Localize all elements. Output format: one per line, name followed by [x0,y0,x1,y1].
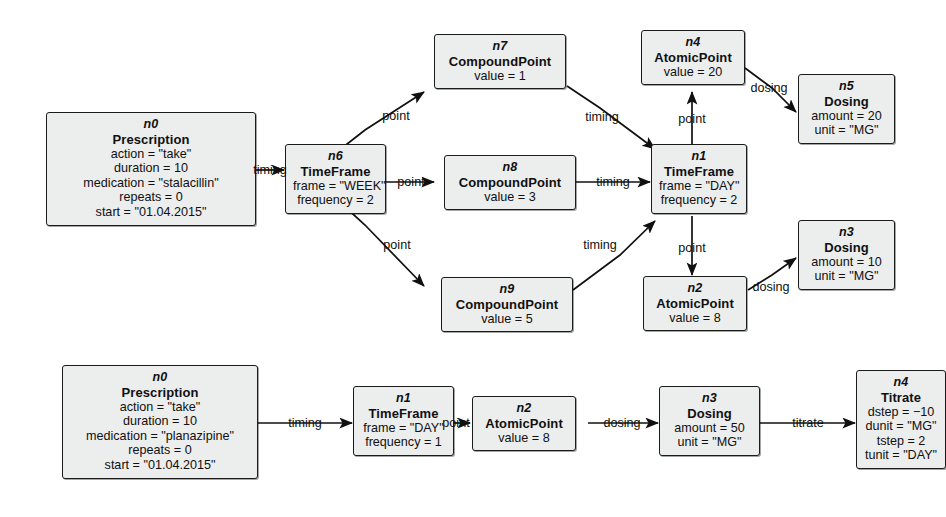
edge-label-point: point [442,416,469,430]
edge-label-point: point [383,238,410,252]
node-attr: value = 5 [449,312,565,327]
node-attr: start = "01.04.2015" [54,205,248,220]
node-g2-n3-dosing[interactable]: n3 Dosing amount = 50 unit = "MG" [659,386,760,456]
edge-label-timing: timing [288,416,322,430]
node-type: Titrate [864,390,938,405]
node-g2-n1-timeframe[interactable]: n1 TimeFrame frame = "DAY" frequency = 1 [353,386,454,456]
edge-label-timing: timing [253,163,287,177]
node-type: AtomicPoint [649,50,737,65]
node-g1-n5-dosing[interactable]: n5 Dosing amount = 20 unit = "MG" [798,74,895,144]
node-attr: frame = "DAY" [361,421,446,436]
node-attr: amount = 10 [806,255,887,270]
edge-label-dosing: dosing [603,416,640,430]
node-attr: value = 8 [651,311,739,326]
node-id: n0 [70,370,250,385]
node-attr: repeats = 0 [70,443,250,458]
node-type: Dosing [806,94,887,109]
node-type: Dosing [806,240,887,255]
node-attr: value = 1 [442,69,558,84]
node-attr: frame = "DAY" [659,179,739,194]
node-attr: frequency = 2 [659,193,739,208]
node-g1-n9-compoundpoint[interactable]: n9 CompoundPoint value = 5 [441,277,573,332]
node-type: CompoundPoint [449,297,565,312]
node-id: n8 [452,160,568,175]
node-type: Dosing [667,406,752,421]
node-g1-n7-compoundpoint[interactable]: n7 CompoundPoint value = 1 [434,34,566,89]
node-g1-n3-dosing[interactable]: n3 Dosing amount = 10 unit = "MG" [798,220,895,290]
node-type: Prescription [70,385,250,400]
node-attr: start = "01.04.2015" [70,458,250,473]
node-type: AtomicPoint [480,416,568,431]
node-attr: unit = "MG" [667,435,752,450]
node-attr: amount = 50 [667,421,752,436]
edge-label-dosing: dosing [752,280,789,294]
node-type: CompoundPoint [442,54,558,69]
node-attr: value = 20 [649,65,737,80]
node-attr: repeats = 0 [54,190,248,205]
node-attr: medication = "stalacillin" [54,176,248,191]
node-attr: unit = "MG" [806,269,887,284]
node-attr: action = "take" [54,147,248,162]
node-attr: duration = 10 [70,414,250,429]
node-g1-n0-prescription[interactable]: n0 Prescription action = "take" duration… [46,112,256,226]
node-id: n5 [806,79,887,94]
node-attr: action = "take" [70,400,250,415]
node-attr: dstep = −10 [864,405,938,420]
node-attr: dunit = "MG" [864,419,938,434]
node-g1-n1-timeframe[interactable]: n1 TimeFrame frame = "DAY" frequency = 2 [651,144,747,214]
node-g2-n0-prescription[interactable]: n0 Prescription action = "take" duration… [62,365,258,479]
node-id: n2 [480,401,568,416]
edge-label-point: point [382,109,409,123]
node-id: n7 [442,39,558,54]
node-g1-n8-compoundpoint[interactable]: n8 CompoundPoint value = 3 [444,155,576,210]
edge-label-timing: timing [585,110,619,124]
node-attr: value = 8 [480,431,568,446]
edge-label-point: point [678,112,705,126]
node-attr: frequency = 1 [361,435,446,450]
node-type: TimeFrame [361,406,446,421]
edge-label-point: point [678,241,705,255]
node-g1-n2-atomicpoint[interactable]: n2 AtomicPoint value = 8 [643,276,747,331]
node-attr: value = 3 [452,190,568,205]
node-id: n4 [864,375,938,390]
edge-label-point: point [397,175,424,189]
node-attr: unit = "MG" [806,123,887,138]
node-g1-n6-timeframe[interactable]: n6 TimeFrame frame = "WEEK" frequency = … [285,144,386,214]
node-attr: frame = "WEEK" [293,179,378,194]
node-attr: duration = 10 [54,161,248,176]
node-id: n3 [806,225,887,240]
edge-label-timing: timing [596,175,630,189]
node-g1-n4-atomicpoint[interactable]: n4 AtomicPoint value = 20 [641,30,745,85]
node-type: TimeFrame [293,164,378,179]
edge-label-timing: timing [583,238,617,252]
node-id: n2 [651,281,739,296]
node-id: n1 [659,149,739,164]
node-type: CompoundPoint [452,175,568,190]
node-attr: frequency = 2 [293,193,378,208]
node-attr: amount = 20 [806,109,887,124]
edge-label-titrate: titrate [792,416,824,430]
node-attr: tunit = "DAY" [864,448,938,463]
node-attr: medication = "planazipine" [70,429,250,444]
node-id: n1 [361,391,446,406]
node-type: AtomicPoint [651,296,739,311]
node-g2-n2-atomicpoint[interactable]: n2 AtomicPoint value = 8 [472,396,576,451]
node-type: Prescription [54,132,248,147]
node-id: n9 [449,282,565,297]
node-type: TimeFrame [659,164,739,179]
node-id: n4 [649,35,737,50]
node-id: n6 [293,149,378,164]
node-id: n0 [54,117,248,132]
node-id: n3 [667,391,752,406]
edge-label-dosing: dosing [750,81,787,95]
node-attr: tstep = 2 [864,434,938,449]
node-g2-n4-titrate[interactable]: n4 Titrate dstep = −10 dunit = "MG" tste… [856,370,946,469]
